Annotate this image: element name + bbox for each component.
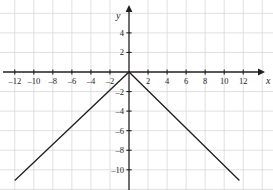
y-tick-label: 4 bbox=[120, 29, 124, 38]
y-tick-label: –6 bbox=[116, 126, 125, 135]
chart-figure: –12–10–8–6–4–224681012 42–2–4–6–8–10 x y bbox=[0, 0, 273, 190]
x-tick-label: –6 bbox=[68, 77, 77, 86]
y-axis-label: y bbox=[116, 11, 120, 21]
x-tick-label: 6 bbox=[184, 77, 188, 86]
y-tick-label: –8 bbox=[116, 146, 125, 155]
function-curve bbox=[15, 72, 240, 181]
y-tick-label: –10 bbox=[111, 166, 124, 175]
x-tick-label: 8 bbox=[203, 77, 207, 86]
x-axis-label: x bbox=[266, 76, 270, 86]
x-tick-label: –4 bbox=[87, 77, 96, 86]
y-tick-label: –4 bbox=[116, 107, 125, 116]
gridlines bbox=[0, 0, 273, 190]
x-tick-label: –2 bbox=[106, 77, 115, 86]
y-tick-label: –2 bbox=[116, 87, 125, 96]
x-tick-label: 10 bbox=[220, 77, 229, 86]
x-tick-label: –8 bbox=[49, 77, 58, 86]
x-tick-label: 2 bbox=[146, 77, 150, 86]
x-tick-label: 12 bbox=[239, 77, 248, 86]
coordinate-plane-svg bbox=[0, 0, 273, 190]
x-tick-label: 4 bbox=[165, 77, 169, 86]
x-tick-label: –12 bbox=[8, 77, 21, 86]
y-tick-label: 2 bbox=[120, 48, 124, 57]
x-tick-label: –10 bbox=[27, 77, 40, 86]
